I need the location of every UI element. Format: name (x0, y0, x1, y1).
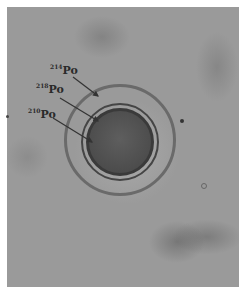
element-symbol: Po (63, 64, 78, 77)
label-po218: 218Po (36, 82, 64, 96)
label-po214: 214Po (50, 63, 78, 77)
element-symbol: Po (41, 108, 56, 121)
mass-number: 214 (50, 63, 63, 70)
label-po210: 210Po (28, 107, 56, 121)
mass-number: 218 (36, 82, 49, 89)
mass-number: 210 (28, 107, 41, 114)
arrows (0, 0, 245, 292)
element-symbol: Po (49, 83, 64, 96)
